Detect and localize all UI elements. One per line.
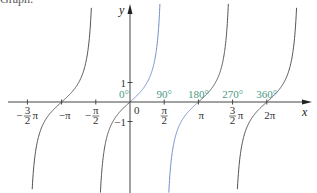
y-tick-label: 1 [121,77,127,89]
fraction-denominator: 2 [161,114,167,126]
x-tick-label: π [199,109,205,121]
fraction-suffix: π [238,109,244,121]
degree-label: 180° [188,88,209,100]
fraction-denominator: 2 [93,114,99,126]
curve-branch-0 [32,8,91,189]
fraction-denominator: 2 [25,114,31,126]
degree-label: 0° [119,88,129,100]
fraction-denominator: 2 [230,114,236,126]
y-tick-label: −1 [114,116,126,128]
y-axis-arrow-icon [128,4,133,14]
curve-branch-3 [169,102,199,193]
x-tick-label: −π [59,109,71,121]
fraction-suffix: π [33,109,39,121]
x-tick-fraction-label: −π2 [85,104,100,126]
x-axis-label: x [301,105,308,119]
curve-branch-2 [130,4,160,102]
degree-label: 360° [256,88,277,100]
x-tick-label: 2π [264,109,276,121]
x-tick-fraction-label: 32π [229,104,244,126]
y-axis-label: y [118,3,125,17]
origin-label: 0 [134,104,140,116]
x-tick-fraction-label: −32π [16,104,38,126]
fraction-sign: − [85,109,91,121]
x-axis-arrow-icon [302,100,312,105]
labels-layer: xy−32π−π−π2π2π32π2π01−10°90°180°270°360° [16,3,308,128]
degree-label: 270° [222,88,243,100]
tangent-plot: xy−32π−π−π2π2π32π2π01−10°90°180°270°360° [0,0,317,193]
fraction-sign: − [16,109,22,121]
x-tick-fraction-label: π2 [161,104,168,126]
degree-label: 90° [156,88,171,100]
